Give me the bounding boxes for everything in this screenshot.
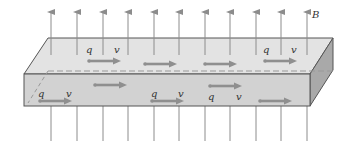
velocity-label-v: v (178, 88, 184, 99)
charge-label-q: q (38, 88, 44, 99)
velocity-label-v: v (291, 44, 297, 55)
field-label-b: B (311, 9, 319, 20)
magnetic-field-lines (51, 106, 307, 141)
charge-label-q: q (208, 91, 214, 102)
charge-label-q: q (86, 44, 92, 55)
charge-label-q: q (263, 44, 269, 55)
velocity-label-v: v (66, 88, 72, 99)
charge-label-q: q (151, 88, 157, 99)
velocity-label-v: v (236, 91, 242, 102)
velocity-label-v: v (114, 44, 120, 55)
hall-effect-diagram: qvqvqvqvqv B (0, 0, 350, 148)
